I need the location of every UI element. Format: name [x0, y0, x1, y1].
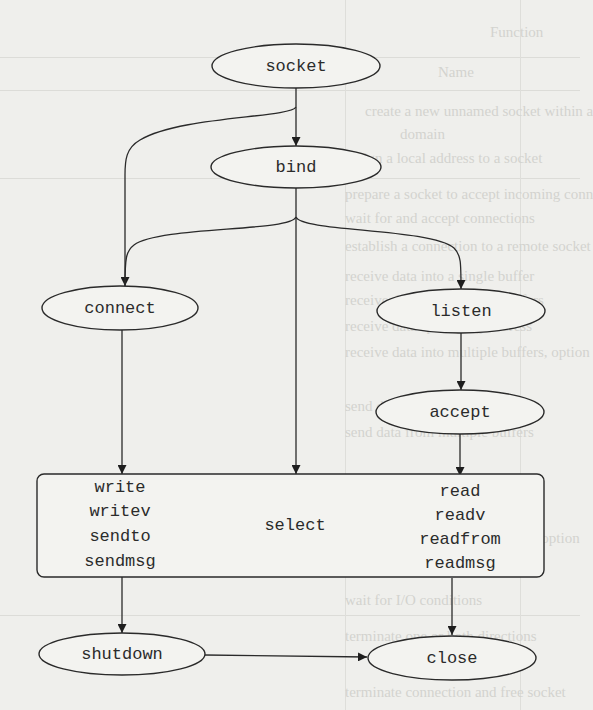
edge-bind-connect [125, 217, 296, 286]
node-label: shutdown [81, 645, 163, 664]
readfrom-label: readfrom [419, 530, 501, 549]
node-bind: bind [211, 146, 381, 188]
node-accept: accept [376, 390, 544, 434]
node-connect: connect [42, 286, 198, 330]
sendto-label: sendto [89, 527, 150, 546]
node-label: listen [430, 302, 491, 321]
node-close: close [368, 636, 536, 680]
node-socket: socket [212, 44, 380, 88]
select-label: select [264, 516, 325, 535]
node-label: connect [84, 299, 155, 318]
writev-label: writev [89, 502, 150, 521]
edge-shutdown-close [205, 655, 367, 657]
node-label: accept [429, 403, 490, 422]
node-label: bind [276, 158, 317, 177]
node-shutdown: shutdown [39, 633, 205, 675]
node-label: close [426, 649, 477, 668]
sendmsg-label: sendmsg [84, 552, 155, 571]
node-label: socket [265, 57, 326, 76]
node-listen: listen [377, 289, 545, 333]
read-label: read [440, 482, 481, 501]
readv-label: readv [434, 506, 485, 525]
edge-bind-listen [296, 217, 461, 289]
write-label: write [94, 478, 145, 497]
edge-socket-connect [125, 107, 296, 286]
readmsg-label: readmsg [424, 554, 495, 573]
node-io-box: write writev sendto sendmsg select read … [37, 474, 544, 577]
